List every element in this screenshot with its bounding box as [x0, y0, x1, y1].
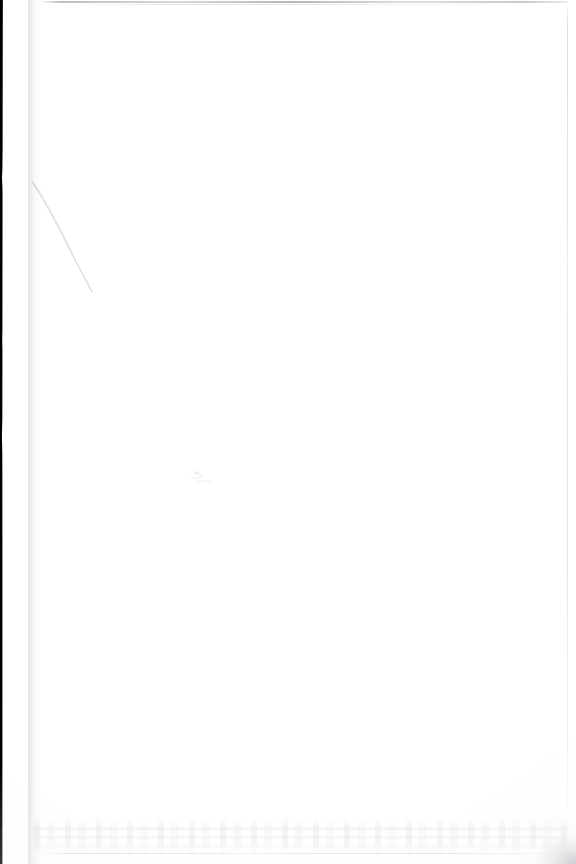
- scanned-page: [0, 0, 576, 864]
- paper-sheet: [0, 0, 576, 864]
